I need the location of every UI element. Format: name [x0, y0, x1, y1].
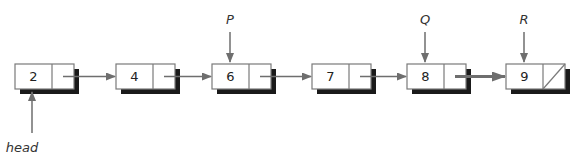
pointer-label: Q	[420, 12, 430, 27]
node-value: 2	[29, 69, 37, 84]
list-node: 6	[212, 64, 276, 94]
pointer-label: R	[519, 12, 528, 27]
pointer-p: P	[226, 12, 234, 62]
pointer-q: Q	[420, 12, 430, 62]
node-value: 8	[421, 69, 429, 84]
list-node: 8	[407, 64, 471, 94]
linked-list-diagram: 2 4 6 7 8 9 head	[0, 0, 580, 160]
node-value: 4	[130, 69, 138, 84]
pointer-head: head	[6, 92, 39, 155]
pointer-label: head	[6, 140, 39, 155]
list-node: 7	[312, 64, 376, 94]
node-value: 9	[520, 69, 528, 84]
node-value: 7	[326, 69, 334, 84]
node-value: 6	[226, 69, 234, 84]
pointer-r: R	[519, 12, 528, 62]
list-node: 9	[506, 64, 570, 94]
list-node: 2	[15, 64, 79, 94]
node-box	[506, 64, 565, 89]
list-node: 4	[116, 64, 180, 94]
pointer-label: P	[226, 12, 234, 27]
